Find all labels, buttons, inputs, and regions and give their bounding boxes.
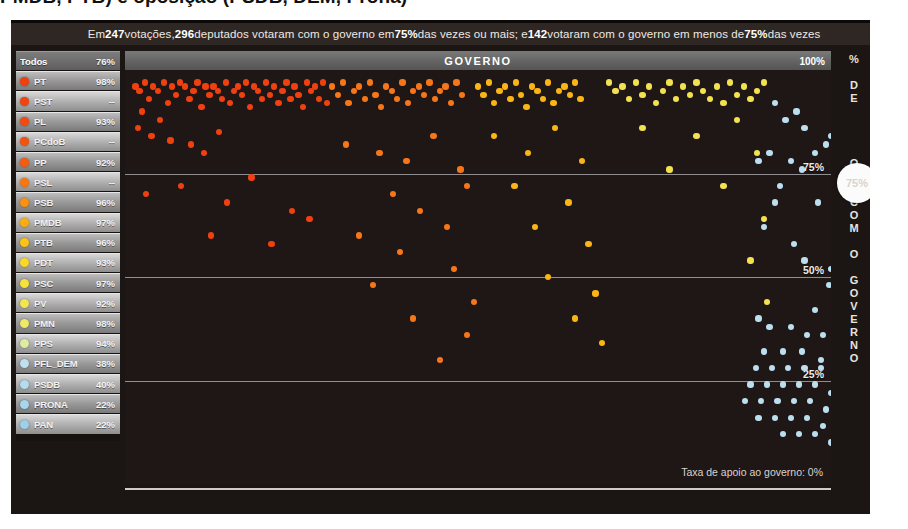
data-point[interactable] — [263, 79, 269, 85]
data-point[interactable] — [448, 100, 454, 106]
data-point[interactable] — [769, 365, 775, 371]
data-point[interactable] — [606, 79, 612, 85]
data-point[interactable] — [764, 381, 770, 387]
data-point[interactable] — [804, 332, 810, 338]
data-point[interactable] — [239, 92, 245, 98]
data-point[interactable] — [457, 166, 463, 172]
data-point[interactable] — [545, 274, 551, 280]
data-point[interactable] — [312, 83, 318, 89]
data-point[interactable] — [666, 79, 672, 85]
data-point[interactable] — [480, 92, 486, 98]
data-point[interactable] — [579, 158, 585, 164]
data-point[interactable] — [823, 406, 829, 412]
data-point[interactable] — [491, 133, 497, 139]
data-point[interactable] — [215, 88, 221, 94]
data-point[interactable] — [639, 125, 645, 131]
data-point[interactable] — [828, 439, 831, 445]
data-point[interactable] — [755, 158, 761, 164]
data-point[interactable] — [378, 104, 384, 110]
data-point[interactable] — [747, 257, 753, 263]
data-point[interactable] — [626, 96, 632, 102]
data-point[interactable] — [761, 216, 767, 222]
data-point[interactable] — [206, 92, 212, 98]
data-point[interactable] — [399, 79, 405, 85]
data-point[interactable] — [799, 348, 805, 354]
data-point[interactable] — [780, 431, 786, 437]
data-point[interactable] — [169, 83, 175, 89]
data-point[interactable] — [550, 100, 556, 106]
data-point[interactable] — [259, 96, 265, 102]
data-point[interactable] — [777, 183, 783, 189]
legend-row-ptb[interactable]: PTB96% — [16, 233, 120, 252]
data-point[interactable] — [693, 79, 699, 85]
data-point[interactable] — [190, 88, 196, 94]
data-point[interactable] — [818, 357, 824, 363]
data-point[interactable] — [513, 79, 519, 85]
data-point[interactable] — [343, 141, 349, 147]
data-point[interactable] — [417, 208, 423, 214]
data-point[interactable] — [545, 79, 551, 85]
data-point[interactable] — [828, 266, 831, 272]
data-point[interactable] — [178, 183, 184, 189]
data-point[interactable] — [356, 83, 362, 89]
legend-row-pmdb[interactable]: PMDB97% — [16, 213, 120, 232]
legend-row-pcdob[interactable]: PCdoB-- — [16, 132, 120, 151]
data-point[interactable] — [459, 92, 465, 98]
data-point[interactable] — [761, 224, 767, 230]
legend-row-psdb[interactable]: PSDB40% — [16, 374, 120, 393]
data-point[interactable] — [812, 150, 818, 156]
data-point[interactable] — [812, 307, 818, 313]
data-point[interactable] — [567, 92, 573, 98]
data-point[interactable] — [486, 79, 492, 85]
data-point[interactable] — [680, 83, 686, 89]
data-point[interactable] — [475, 83, 481, 89]
data-point[interactable] — [300, 104, 306, 110]
data-point[interactable] — [464, 183, 470, 189]
party-legend-sidebar[interactable]: Todos76%PT98%PST--PL93%PCdoB--PP92%PSL--… — [16, 51, 120, 441]
data-point[interactable] — [761, 79, 767, 85]
data-point[interactable] — [754, 88, 760, 94]
data-point[interactable] — [826, 282, 832, 288]
legend-row-pfl_dem[interactable]: PFL_DEM38% — [16, 354, 120, 373]
data-point[interactable] — [173, 92, 179, 98]
data-point[interactable] — [687, 92, 693, 98]
data-point[interactable] — [755, 315, 761, 321]
legend-row-pt[interactable]: PT98% — [16, 71, 120, 90]
data-point[interactable] — [707, 96, 713, 102]
legend-row-psc[interactable]: PSC97% — [16, 273, 120, 292]
data-point[interactable] — [389, 88, 395, 94]
data-point[interactable] — [761, 348, 767, 354]
data-point[interactable] — [525, 150, 531, 156]
data-point[interactable] — [403, 158, 409, 164]
data-point[interactable] — [161, 79, 167, 85]
data-point[interactable] — [796, 431, 802, 437]
data-point[interactable] — [747, 381, 753, 387]
data-point[interactable] — [791, 241, 797, 247]
data-point[interactable] — [673, 96, 679, 102]
data-point[interactable] — [182, 83, 188, 89]
data-point[interactable] — [774, 398, 780, 404]
plot-canvas[interactable]: 75%50%25% — [125, 70, 831, 484]
data-point[interactable] — [201, 150, 207, 156]
data-point[interactable] — [766, 324, 772, 330]
data-point[interactable] — [812, 431, 818, 437]
data-point[interactable] — [135, 125, 141, 131]
data-point[interactable] — [198, 104, 204, 110]
data-point[interactable] — [747, 96, 753, 102]
data-point[interactable] — [157, 117, 163, 123]
data-point[interactable] — [782, 117, 788, 123]
data-point[interactable] — [155, 88, 161, 94]
data-point[interactable] — [700, 88, 706, 94]
data-point[interactable] — [372, 92, 378, 98]
data-point[interactable] — [619, 83, 625, 89]
data-point[interactable] — [534, 88, 540, 94]
data-point[interactable] — [306, 216, 312, 222]
data-point[interactable] — [793, 108, 799, 114]
data-point[interactable] — [224, 199, 230, 205]
data-point[interactable] — [727, 79, 733, 85]
data-point[interactable] — [796, 381, 802, 387]
data-point[interactable] — [788, 415, 794, 421]
data-point[interactable] — [275, 100, 281, 106]
legend-row-pdt[interactable]: PDT93% — [16, 253, 120, 272]
legend-row-pv[interactable]: PV92% — [16, 293, 120, 312]
